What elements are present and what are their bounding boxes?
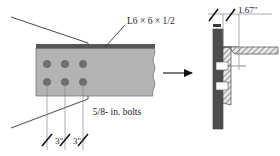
label-layer: L6 × 6 × 1/2 5/8- in. bolts 3" 3" 1.67" <box>0 0 280 156</box>
bolt-note-label: 5/8- in. bolts <box>93 107 142 117</box>
angle-designation-label: L6 × 6 × 1/2 <box>127 16 175 26</box>
engineering-drawing-figure: L6 × 6 × 1/2 5/8- in. bolts 3" 3" 1.67" <box>0 0 280 156</box>
edge-distance-label: 1.67" <box>238 5 258 15</box>
spacing-label-2: 3" <box>73 136 82 146</box>
spacing-label-1: 3" <box>55 136 64 146</box>
